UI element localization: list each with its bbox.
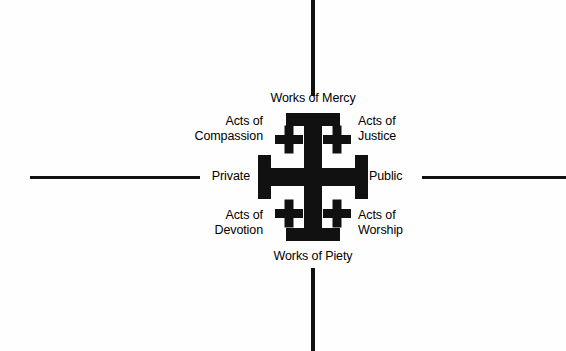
- label-private: Private: [155, 169, 250, 184]
- label-acts-of-devotion: Acts of Devotion: [150, 208, 263, 238]
- small-cross-bottom-right: [323, 200, 351, 228]
- small-cross-top-left: [275, 126, 303, 154]
- axis-line-vertical-top: [311, 0, 315, 96]
- label-public: Public: [369, 169, 464, 184]
- large-cross-shape: [258, 113, 368, 241]
- small-cross-top-right: [323, 126, 351, 154]
- label-acts-of-justice: Acts of Justice: [358, 114, 471, 144]
- label-acts-of-compassion: Acts of Compassion: [150, 114, 263, 144]
- label-acts-of-worship: Acts of Worship: [358, 208, 471, 238]
- label-works-of-piety: Works of Piety: [233, 249, 393, 264]
- diagram-canvas: Works of Mercy Works of Piety Acts of Co…: [0, 0, 566, 351]
- label-works-of-mercy: Works of Mercy: [233, 91, 393, 106]
- small-cross-bottom-left: [275, 200, 303, 228]
- axis-line-vertical-bottom: [311, 268, 315, 351]
